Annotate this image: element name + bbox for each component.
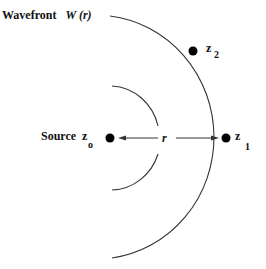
radius-label: r — [162, 132, 167, 144]
inner-arc-lower — [112, 154, 158, 190]
z2-var: z — [206, 42, 211, 54]
z1-sub: 1 — [245, 142, 250, 152]
z1-var: z — [235, 130, 240, 142]
point-z1 — [222, 134, 231, 143]
z2-sub: 2 — [214, 50, 219, 60]
arrowhead-left-icon — [118, 136, 126, 141]
source-label: Source — [41, 130, 76, 142]
wavefront-diagram — [0, 0, 266, 269]
source-sub: o — [88, 140, 93, 150]
wavefront-title: Wavefront W (r) — [2, 9, 92, 21]
point-z2 — [189, 47, 198, 56]
arrowhead-right-icon — [211, 136, 219, 141]
source-var: z — [82, 130, 87, 142]
inner-arc-upper — [112, 86, 158, 126]
wavefront-symbol: W (r) — [65, 8, 91, 22]
wavefront-label: Wavefront — [2, 8, 56, 22]
source-point — [106, 134, 115, 143]
